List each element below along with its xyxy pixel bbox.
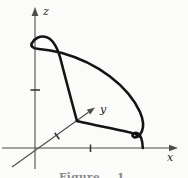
- z-axis-label: z: [42, 5, 49, 18]
- figure-canvas: z x y Figure 1.: [0, 0, 188, 178]
- sphere-wedge-bottom-edge-curve: [77, 121, 140, 137]
- z-axis-arrowhead-icon: [32, 7, 39, 16]
- coordinate-sketch-svg: z x y: [0, 0, 188, 178]
- y-axis-arrowhead-icon: [87, 108, 95, 115]
- figure-caption: Figure 1.: [59, 171, 179, 178]
- x-axis-label: x: [167, 151, 174, 164]
- y-axis-label: y: [99, 103, 107, 116]
